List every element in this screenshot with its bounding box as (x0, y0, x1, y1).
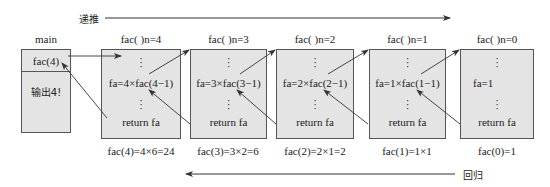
arrows-overlay (0, 0, 550, 187)
return-arrow-n1 (324, 90, 368, 124)
return-arrow-n3 (149, 90, 190, 124)
call-arrow-n3 (240, 50, 275, 74)
call-arrow-n1 (421, 50, 459, 74)
return-arrow-n2 (237, 90, 276, 124)
call-arrow-n4 (149, 50, 189, 74)
call-arrow-n2 (328, 50, 368, 74)
return-arrow-n0 (417, 90, 460, 124)
return-arrow-n4 (62, 63, 107, 118)
